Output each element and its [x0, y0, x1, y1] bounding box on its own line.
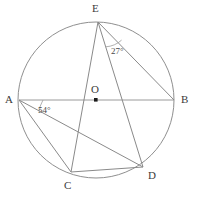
segment-ED [98, 22, 143, 167]
geometry-canvas [0, 0, 197, 197]
geometry-figure: A B C D E O 27° 54° [0, 0, 197, 197]
point-label-E: E [92, 3, 99, 14]
segment-EC [71, 22, 98, 172]
point-label-D: D [148, 170, 156, 181]
center-point-marker [94, 98, 98, 102]
segment-EB [98, 22, 174, 100]
point-label-B: B [181, 94, 188, 105]
point-label-A: A [5, 94, 13, 105]
point-label-O: O [91, 84, 99, 95]
angle-label-at-A: 54° [38, 106, 51, 115]
angle-label-at-E: 27° [111, 47, 124, 56]
point-label-C: C [64, 180, 71, 191]
